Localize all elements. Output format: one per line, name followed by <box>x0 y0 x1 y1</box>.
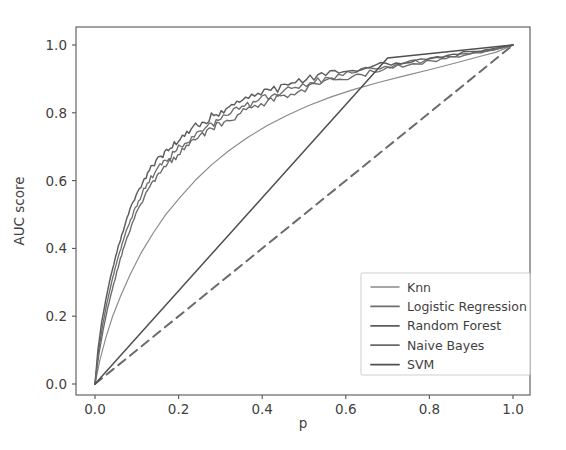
y-tick-label: 0.6 <box>46 173 67 189</box>
x-tick-label: 0.0 <box>84 401 105 417</box>
y-tick-label: 0.8 <box>46 105 67 121</box>
y-tick-label: 1.0 <box>46 37 67 53</box>
legend-label-logistic-regression[interactable]: Logistic Regression <box>407 299 527 314</box>
y-tick-label: 0.0 <box>46 376 67 392</box>
figure-background <box>0 0 566 450</box>
x-tick-label: 0.8 <box>419 401 440 417</box>
y-tick-label: 0.2 <box>46 308 67 324</box>
x-axis-label: p <box>299 415 308 431</box>
y-axis-label: AUC score <box>11 176 27 245</box>
legend-label-naive-bayes[interactable]: Naive Bayes <box>407 338 484 353</box>
legend-label-knn[interactable]: Knn <box>407 280 431 295</box>
chart-legend[interactable]: KnnLogistic RegressionRandom ForestNaive… <box>361 273 530 375</box>
legend-label-svm[interactable]: SVM <box>407 357 434 372</box>
x-tick-label: 1.0 <box>502 401 523 417</box>
x-tick-label: 0.4 <box>251 401 272 417</box>
chart-canvas: 0.00.20.40.60.81.00.00.20.40.60.81.0 p A… <box>0 0 566 450</box>
legend-label-random-forest[interactable]: Random Forest <box>407 318 501 333</box>
y-tick-label: 0.4 <box>46 240 67 256</box>
x-tick-label: 0.6 <box>335 401 356 417</box>
x-tick-label: 0.2 <box>168 401 189 417</box>
roc-chart-figure: 0.00.20.40.60.81.00.00.20.40.60.81.0 p A… <box>0 0 566 450</box>
